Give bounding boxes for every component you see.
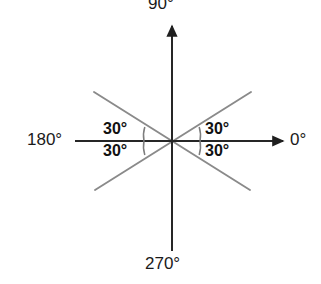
axis-label-180-degrees: 180° xyxy=(27,130,62,150)
axis-label-90-degrees: 90° xyxy=(148,0,174,14)
axis-label-0-degrees: 0° xyxy=(290,130,306,150)
angle-arc-upper-left xyxy=(143,127,144,141)
angle-label-upper-right: 30° xyxy=(205,120,229,138)
angle-arc-lower-right xyxy=(199,141,200,155)
axis-label-270-degrees: 270° xyxy=(145,254,180,274)
angle-arc-lower-left xyxy=(143,141,144,155)
angle-arc-upper-right xyxy=(199,127,200,141)
angle-label-upper-left: 30° xyxy=(103,120,127,138)
angle-label-lower-right: 30° xyxy=(205,142,229,160)
angle-label-lower-left: 30° xyxy=(103,142,127,160)
diagram-canvas: 90° 270° 180° 0° 30° 30° 30° 30° xyxy=(0,0,321,284)
